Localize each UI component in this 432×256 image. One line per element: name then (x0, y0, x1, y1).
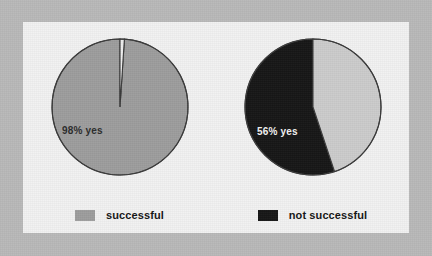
legend-swatch-successful (75, 210, 95, 221)
pie-chart-successful: 98% yes successful (23, 22, 216, 233)
pie-chart-figure: 98% yes successful 56% yes not successfu… (0, 0, 432, 256)
charts-container: 98% yes successful 56% yes not successfu… (23, 22, 409, 233)
legend-label-not-successful: not successful (289, 209, 367, 221)
legend-label-successful: successful (106, 209, 164, 221)
pie-svg-successful (50, 37, 190, 177)
legend-successful: successful (23, 209, 216, 221)
pie-chart-not-successful: 56% yes not successful (216, 22, 409, 233)
pie-svg-not-successful (243, 37, 383, 177)
legend-not-successful: not successful (216, 209, 409, 221)
legend-swatch-not-successful (258, 210, 278, 221)
